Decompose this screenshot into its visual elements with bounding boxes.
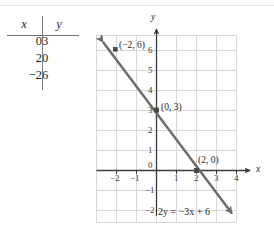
equation-label: 2y = −3x + 6 [158,206,210,217]
grid-horizontal-lines [97,36,237,223]
plotted-line [103,42,232,214]
x-tick-label: 1 [174,173,179,183]
x-tick-label: −1 [130,173,140,183]
x-tick-label-origin: 0 [148,160,153,170]
graph-canvas [0,0,274,235]
point-label-0-3: (0, 3) [161,102,182,112]
point-marker-neg2-6 [113,47,118,52]
y-tick-label: −2 [145,205,155,215]
x-axis-label: x [256,164,260,174]
y-tick-label: 3 [148,105,153,115]
figure-root: x y 0 3 2 0 −2 6 [0,0,274,235]
y-tick-label: −1 [145,185,155,195]
point-label-2-0: (2, 0) [198,155,219,165]
x-tick-label: −2 [110,173,120,183]
grid-vertical-lines [97,36,237,223]
y-tick-label: 2 [148,125,153,135]
coordinate-graph: y x −2 −1 0 1 2 3 4 6 5 4 3 2 1 −1 −2 (−… [0,0,274,235]
point-label-neg2-6: (−2, 6) [119,40,145,50]
y-tick-label: 5 [148,65,153,75]
point-marker-0-3 [154,108,159,113]
x-tick-label: 3 [214,173,219,183]
y-tick-label: 4 [148,85,153,95]
y-tick-label: 6 [148,45,153,55]
y-axis-label: y [151,12,155,22]
x-tick-label: 4 [234,173,239,183]
x-tick-label: 2 [194,173,199,183]
y-tick-label: 1 [148,145,153,155]
